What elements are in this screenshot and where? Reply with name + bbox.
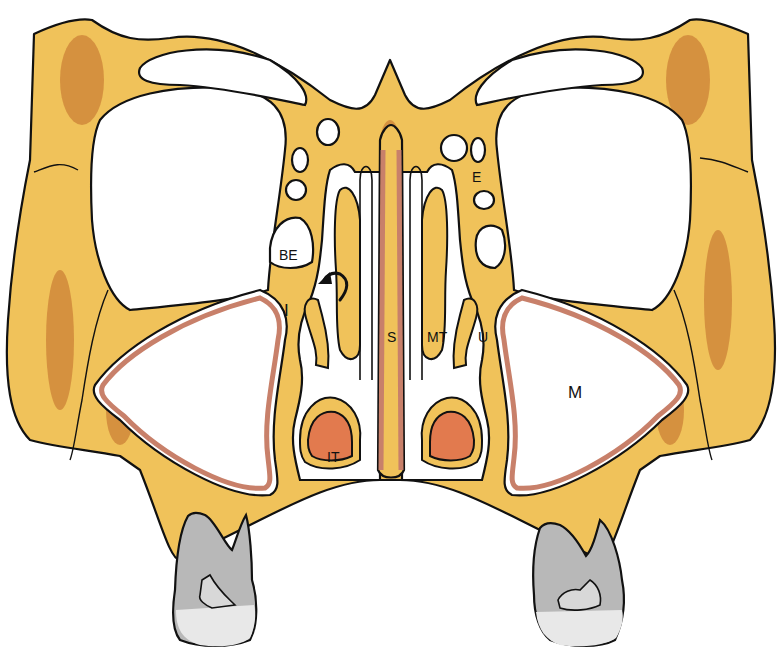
label-mt: MT: [427, 329, 448, 345]
label-be: BE: [279, 247, 298, 263]
right-molar-crown: [536, 610, 623, 646]
left-ethmoid-cell-1: [317, 119, 339, 145]
right-inferior-turbinate-mucosa: [430, 412, 474, 461]
label-e: E: [472, 169, 481, 185]
right-ethmoid-cell-1: [441, 135, 467, 161]
label-s: S: [387, 329, 396, 345]
left-ethmoid-cell-2: [292, 148, 308, 172]
marrow-left-upper: [60, 35, 104, 125]
label-i: I: [284, 301, 289, 320]
right-ethmoid-cell-2: [471, 138, 485, 162]
septum-mucosa-left: [381, 150, 383, 470]
septum-mucosa-right: [399, 150, 401, 470]
right-orbit: [496, 87, 691, 310]
label-u: U: [478, 329, 488, 345]
right-ethmoid-cell-3: [474, 191, 494, 209]
right-ethmoid-cell-4: [476, 226, 505, 268]
marrow-left-lateral: [46, 270, 74, 410]
left-ethmoid-cell-3: [286, 180, 306, 200]
left-orbit: [91, 87, 286, 310]
label-m: M: [568, 383, 582, 402]
label-it: IT: [327, 449, 340, 465]
nasal-sinus-coronal-diagram: BE I S MT U IT E M: [0, 0, 782, 664]
marrow-right-lateral: [704, 230, 732, 370]
